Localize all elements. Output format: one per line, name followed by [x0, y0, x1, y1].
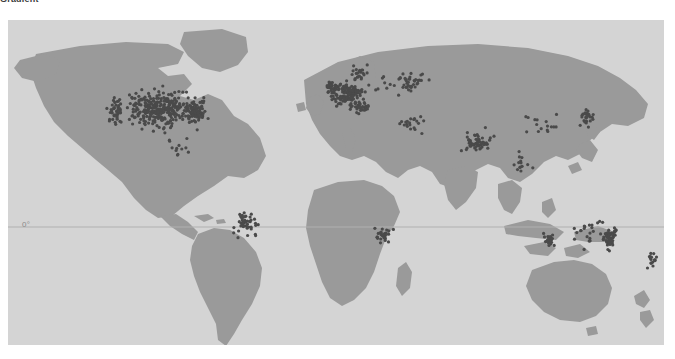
data-point	[175, 147, 178, 150]
data-point	[580, 115, 583, 118]
data-point	[168, 140, 171, 143]
data-point	[178, 102, 181, 105]
data-point	[173, 97, 176, 100]
data-point	[575, 231, 578, 234]
data-point	[364, 90, 367, 93]
data-point	[413, 80, 416, 83]
data-point	[126, 106, 129, 109]
data-point	[345, 83, 348, 86]
data-point	[194, 96, 197, 99]
data-point	[339, 102, 342, 105]
data-point	[139, 118, 142, 121]
data-point	[250, 213, 253, 216]
data-point	[147, 106, 150, 109]
data-point	[592, 230, 595, 233]
data-point	[540, 127, 543, 130]
data-point	[356, 96, 359, 99]
data-point	[353, 78, 356, 81]
data-point	[202, 96, 205, 99]
data-point	[404, 120, 407, 123]
data-point	[408, 78, 411, 81]
data-point	[351, 104, 354, 107]
data-point	[332, 89, 335, 92]
data-point	[466, 136, 469, 139]
data-point	[587, 126, 590, 129]
data-point	[408, 85, 411, 88]
data-point	[143, 96, 146, 99]
data-point	[177, 144, 180, 147]
data-point	[194, 120, 197, 123]
data-point	[586, 235, 589, 238]
data-point	[383, 81, 386, 84]
data-point	[140, 88, 143, 91]
data-point	[603, 238, 606, 241]
data-point	[154, 112, 157, 115]
data-point	[401, 72, 404, 75]
data-point	[521, 165, 524, 168]
data-point	[589, 119, 592, 122]
data-point	[399, 76, 402, 79]
data-point	[524, 115, 527, 118]
data-point	[596, 221, 599, 224]
data-point	[185, 137, 188, 140]
data-point	[525, 130, 528, 133]
data-point	[409, 72, 412, 75]
data-point	[651, 264, 654, 267]
data-point	[241, 222, 244, 225]
data-point	[147, 92, 150, 95]
data-point	[358, 69, 361, 72]
data-point	[517, 161, 520, 164]
data-point	[646, 266, 649, 269]
data-point	[111, 118, 114, 121]
data-point	[207, 117, 210, 120]
data-point	[169, 113, 172, 116]
data-point	[366, 71, 369, 74]
data-point	[117, 100, 120, 103]
data-point	[649, 252, 652, 255]
figure-caption: Gradient	[0, 0, 120, 5]
data-point	[187, 114, 190, 117]
data-point	[484, 126, 487, 129]
data-point	[535, 123, 538, 126]
data-point	[175, 118, 178, 121]
data-point	[385, 87, 388, 90]
data-point	[360, 88, 363, 91]
data-point	[343, 100, 346, 103]
data-point	[114, 121, 117, 124]
data-point	[168, 121, 171, 124]
data-point	[481, 136, 484, 139]
data-point	[171, 146, 174, 149]
data-point	[416, 82, 419, 85]
data-point	[583, 227, 586, 230]
data-point	[601, 221, 604, 224]
data-point	[356, 75, 359, 78]
data-point	[402, 83, 405, 86]
data-point	[555, 113, 558, 116]
data-point	[134, 116, 137, 119]
data-point	[354, 101, 357, 104]
data-point	[253, 218, 256, 221]
data-point	[155, 103, 158, 106]
data-point	[128, 118, 131, 121]
data-point	[338, 96, 341, 99]
data-point	[360, 77, 363, 80]
data-point	[158, 93, 161, 96]
data-point	[583, 112, 586, 115]
data-point	[465, 148, 468, 151]
data-point	[334, 86, 337, 89]
data-point	[583, 120, 586, 123]
data-point	[149, 97, 152, 100]
figure-page: Gradient	[0, 0, 675, 359]
data-point	[381, 228, 384, 231]
data-point	[157, 117, 160, 120]
data-point	[232, 231, 235, 234]
data-point	[118, 120, 121, 123]
data-point	[475, 145, 478, 148]
data-point	[579, 229, 582, 232]
data-point	[187, 151, 190, 154]
data-point	[177, 114, 180, 117]
data-point	[605, 234, 608, 237]
data-point	[585, 108, 588, 111]
data-point	[147, 122, 150, 125]
data-point	[536, 118, 539, 121]
